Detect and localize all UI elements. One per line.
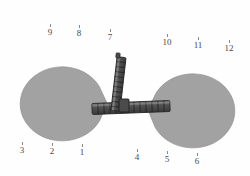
marker-label: 3 <box>13 146 31 155</box>
marker-label: 6 <box>188 157 206 166</box>
marker-label: 2 <box>43 147 61 156</box>
marker-label: 4 <box>128 153 146 162</box>
marker-7[interactable]: 7 <box>101 29 119 42</box>
marker-4[interactable]: 4 <box>128 149 146 162</box>
marker-label: 8 <box>70 29 88 38</box>
marker-label: 7 <box>101 33 119 42</box>
marker-9[interactable]: 9 <box>41 24 59 37</box>
marker-10[interactable]: 10 <box>158 34 176 47</box>
marker-label: 11 <box>189 41 207 50</box>
marker-6[interactable]: 6 <box>188 153 206 166</box>
chain-junction <box>119 99 129 112</box>
marker-11[interactable]: 11 <box>189 37 207 50</box>
marker-5[interactable]: 5 <box>158 151 176 164</box>
marker-8[interactable]: 8 <box>70 25 88 38</box>
horizontal-chain <box>92 101 170 115</box>
marker-label: 9 <box>41 28 59 37</box>
marker-3[interactable]: 3 <box>13 142 31 155</box>
scene-graphics <box>0 0 250 176</box>
diagram-canvas: 1 2 3 4 5 6 7 8 9 10 11 12 <box>0 0 250 176</box>
marker-1[interactable]: 1 <box>73 144 91 157</box>
marker-label: 5 <box>158 155 176 164</box>
marker-2[interactable]: 2 <box>43 143 61 156</box>
marker-label: 12 <box>220 44 238 53</box>
marker-label: 10 <box>158 38 176 47</box>
marker-12[interactable]: 12 <box>220 40 238 53</box>
marker-label: 1 <box>73 148 91 157</box>
